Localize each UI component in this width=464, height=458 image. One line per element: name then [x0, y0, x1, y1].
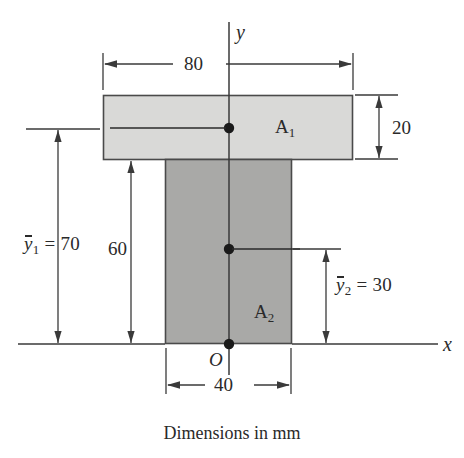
arrowhead-ybar1-top	[54, 130, 61, 142]
arrowhead-40-left	[167, 381, 180, 388]
ybar2-subscript: 2	[345, 283, 352, 298]
arrowhead-80-left	[104, 60, 117, 67]
dimension-label-60: 60	[108, 239, 127, 258]
region-label-a1-subscript: 1	[289, 125, 295, 140]
arrowhead-20-bottom	[375, 146, 382, 158]
ybar1-overbar	[25, 235, 32, 237]
centroid-label-ybar2: y2=30	[336, 275, 392, 298]
y-axis-label: y	[236, 22, 245, 42]
arrowhead-80-right	[339, 60, 352, 67]
origin-label: O	[209, 350, 223, 369]
composite-area-diagram: y x O 80 20 60 40 y1=70 y2=30 A1 A2 Dime…	[0, 0, 464, 458]
origin-marker	[224, 339, 234, 349]
ybar2-equals: =	[357, 274, 368, 295]
region-label-a2-letter: A	[254, 301, 268, 322]
arrowhead-20-top	[375, 96, 382, 108]
arrowhead-40-right	[277, 381, 290, 388]
figure-caption: Dimensions in mm	[0, 424, 464, 442]
arrowhead-ybar2-top	[322, 250, 329, 262]
ybar1-value: 70	[61, 233, 81, 254]
arrowhead-60-top	[127, 161, 134, 173]
ybar1-equals: =	[45, 233, 56, 254]
dimension-label-80: 80	[184, 54, 203, 73]
dimension-label-40: 40	[214, 375, 233, 394]
ybar1-subscript: 1	[33, 242, 40, 257]
ybar1-symbol: y	[24, 234, 33, 253]
arrowhead-ybar1-bottom	[54, 331, 61, 343]
region-label-a2-subscript: 2	[268, 310, 274, 325]
region-label-a2: A2	[254, 302, 274, 325]
dimension-label-20: 20	[392, 118, 411, 137]
arrowhead-60-bottom	[127, 331, 134, 343]
region-label-a1: A1	[275, 117, 295, 140]
ybar2-symbol: y	[336, 275, 345, 294]
region-label-a1-letter: A	[275, 116, 289, 137]
x-axis-label: x	[443, 334, 452, 354]
ybar2-overbar	[337, 276, 344, 278]
arrowhead-ybar2-bottom	[322, 331, 329, 343]
centroid-label-ybar1: y1=70	[24, 234, 80, 257]
ybar2-value: 30	[373, 274, 393, 295]
